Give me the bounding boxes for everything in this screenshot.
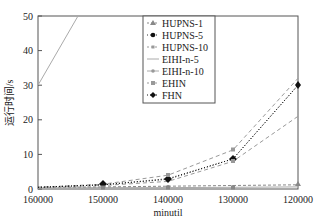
legend-label: EIHI-n-5 — [162, 54, 199, 65]
y-tick-label: 30 — [23, 80, 33, 91]
legend-label: HUPNS-10 — [162, 42, 208, 53]
x-tick-label: 120000 — [283, 194, 313, 205]
square-marker-icon — [151, 81, 155, 85]
y-axis: 0 10 20 30 40 50 运行时间/s — [3, 11, 42, 195]
y-tick-label: 50 — [23, 11, 33, 22]
x-axis: 160000 150000 140000 130000 120000 minut… — [23, 185, 313, 218]
diamond-marker-icon — [151, 69, 155, 73]
legend-label: HUPNS-1 — [162, 18, 203, 29]
y-tick-label: 40 — [23, 45, 33, 56]
x-tick-label: 150000 — [88, 194, 118, 205]
legend-label: EHIN — [162, 78, 186, 89]
legend-label: HUPNS-5 — [162, 30, 203, 41]
series-eihi-n-5 — [38, 16, 78, 85]
x-tick-label: 130000 — [218, 194, 248, 205]
x-tick-label: 160000 — [23, 194, 53, 205]
square-marker-icon — [152, 46, 155, 49]
legend-label: EIHI-n-10 — [162, 66, 204, 77]
y-tick-label: 0 — [28, 184, 33, 195]
x-axis-label: minutil — [154, 207, 183, 218]
x-tick-label: 140000 — [153, 194, 183, 205]
circle-marker-icon — [151, 33, 156, 38]
chart: 0 10 20 30 40 50 运行时间/s 160000 150000 14… — [0, 0, 323, 224]
y-tick-label: 20 — [23, 114, 33, 125]
y-axis-label: 运行时间/s — [3, 80, 15, 127]
legend: HUPNS-1 HUPNS-5 HUPNS-10 EIHI-n-5 EIHI-n… — [143, 16, 215, 103]
y-tick-label: 10 — [23, 149, 33, 160]
legend-label: FHN — [162, 90, 182, 101]
